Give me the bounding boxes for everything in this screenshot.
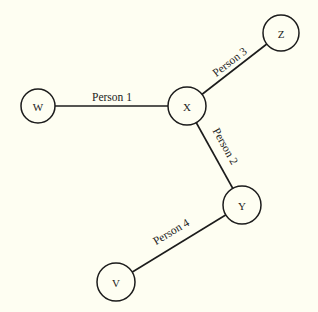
node-z: Z — [263, 15, 299, 51]
edge-label: Person 1 — [92, 91, 132, 103]
node-v: V — [97, 263, 135, 301]
edges-layer: Person 1Person 3Person 2Person 4 — [38, 33, 281, 282]
edge-label: Person 2 — [211, 126, 241, 167]
node-y: Y — [223, 186, 261, 224]
edge-label: Person 4 — [151, 216, 192, 247]
network-diagram: Person 1Person 3Person 2Person 4 WXZYV — [0, 0, 318, 312]
node-label: Z — [278, 28, 285, 40]
nodes-layer: WXZYV — [21, 15, 299, 301]
node-label: X — [183, 101, 191, 113]
node-label: Y — [238, 200, 246, 212]
edge-line — [116, 205, 242, 282]
node-label: V — [112, 277, 120, 289]
edge-y-v: Person 4 — [116, 205, 242, 282]
node-w: W — [21, 89, 55, 123]
node-x: X — [168, 87, 206, 125]
node-label: W — [33, 101, 44, 113]
edge-w-x: Person 1 — [38, 91, 187, 106]
